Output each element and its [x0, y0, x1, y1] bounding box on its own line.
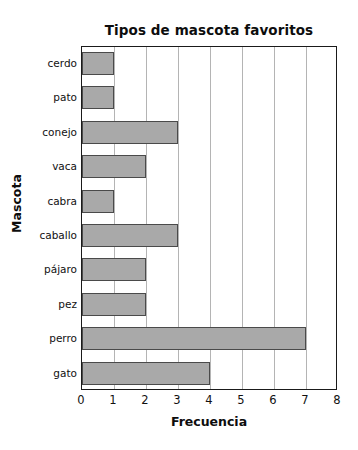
bar-row: [82, 357, 336, 391]
y-tick-label-caballo: caballo: [0, 218, 77, 252]
y-tick-label-pez: pez: [0, 287, 77, 321]
y-tick-label-cerdo: cerdo: [0, 46, 77, 80]
y-tick-label-cabra: cabra: [0, 184, 77, 218]
bar-cabra: [82, 190, 114, 213]
bar-pájaro: [82, 258, 146, 281]
bars-layer: [82, 47, 336, 389]
x-tick-label-1: 1: [101, 393, 125, 407]
y-tick-label-vaca: vaca: [0, 149, 77, 183]
bar-row: [82, 219, 336, 253]
x-tick-label-4: 4: [197, 393, 221, 407]
y-tick-label-gato: gato: [0, 356, 77, 390]
bar-row: [82, 116, 336, 150]
bar-row: [82, 322, 336, 356]
y-tick-label-pato: pato: [0, 80, 77, 114]
x-tick-label-6: 6: [261, 393, 285, 407]
bar-vaca: [82, 155, 146, 178]
chart-title: Tipos de mascota favoritos: [81, 22, 337, 38]
bar-row: [82, 81, 336, 115]
y-tick-label-pájaro: pájaro: [0, 252, 77, 286]
bar-perro: [82, 327, 306, 350]
bar-conejo: [82, 121, 178, 144]
bar-caballo: [82, 224, 178, 247]
bar-pato: [82, 86, 114, 109]
x-tick-label-2: 2: [133, 393, 157, 407]
bar-row: [82, 253, 336, 287]
x-tick-label-7: 7: [293, 393, 317, 407]
bar-pez: [82, 293, 146, 316]
bar-cerdo: [82, 52, 114, 75]
plot-area: [81, 46, 337, 390]
y-axis-tick-labels: cerdopatoconejovacacabracaballopájaropez…: [0, 46, 77, 390]
x-tick-label-8: 8: [325, 393, 349, 407]
y-tick-label-perro: perro: [0, 321, 77, 355]
bar-row: [82, 150, 336, 184]
bar-row: [82, 288, 336, 322]
bar-gato: [82, 362, 210, 385]
bar-chart-figure: Tipos de mascota favoritos Mascota cerdo…: [0, 0, 358, 450]
x-tick-label-0: 0: [69, 393, 93, 407]
y-tick-label-conejo: conejo: [0, 115, 77, 149]
x-tick-label-3: 3: [165, 393, 189, 407]
bar-row: [82, 185, 336, 219]
x-axis-title: Frecuencia: [81, 414, 337, 429]
x-axis-tick-labels: 012345678: [81, 393, 337, 409]
bar-row: [82, 47, 336, 81]
x-tick-label-5: 5: [229, 393, 253, 407]
